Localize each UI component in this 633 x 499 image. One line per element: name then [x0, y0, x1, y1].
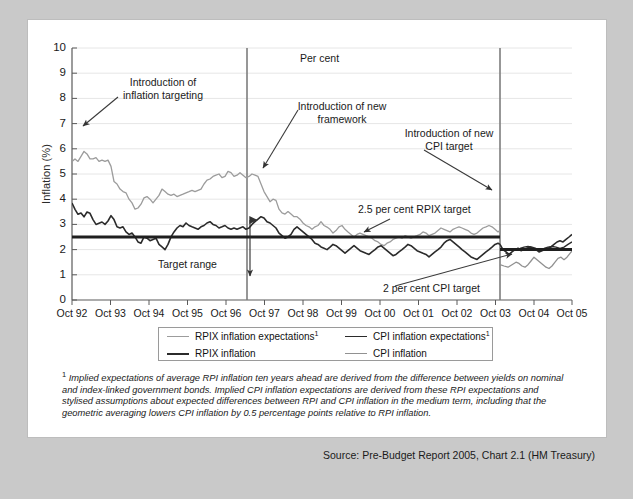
- y-tick-7: 7: [44, 117, 66, 129]
- footnote-marker: 1: [62, 370, 66, 379]
- annotation-line-1: Introduction of new: [393, 127, 505, 140]
- legend-item-rpix-inflation[interactable]: RPIX inflation: [159, 348, 337, 359]
- annotation-line-1: Introduction of new: [287, 100, 397, 113]
- footnote-text: Implied expectations of average RPI infl…: [62, 373, 563, 418]
- y-tick-4: 4: [44, 192, 66, 204]
- source-strip: Source: Pre-Budget Report 2005, Chart 2.…: [27, 440, 607, 470]
- y-tick-1: 1: [44, 268, 66, 280]
- legend-swatch-rpix-expectations: [167, 336, 189, 337]
- y-tick-2: 2: [44, 243, 66, 255]
- arrow-rpix-target-label: [364, 219, 390, 232]
- y-tick-5: 5: [44, 167, 66, 179]
- annotation-intro-new-cpi-target: Introduction of new CPI target: [393, 127, 505, 153]
- legend-label-rpix-expectations: RPIX inflation expectations1: [195, 330, 318, 342]
- legend-item-rpix-expectations[interactable]: RPIX inflation expectations1: [159, 330, 337, 342]
- legend-label-cpi-inflation: CPI inflation: [373, 348, 427, 359]
- annotation-line-2: inflation targeting: [108, 89, 218, 102]
- y-tick-0: 0: [44, 293, 66, 305]
- annotation-line-2: framework: [287, 113, 397, 126]
- annotation-line-2: CPI target: [393, 140, 505, 153]
- source-text: Source: Pre-Budget Report 2005, Chart 2.…: [323, 449, 607, 461]
- series-rpix-expectations: [72, 151, 500, 245]
- annotation-rpix-target-label: 2.5 per cent RPIX target: [358, 203, 471, 216]
- chart-footnote: 1 Implied expectations of average RPI in…: [62, 369, 567, 419]
- x-tick-oct-05: Oct 05: [542, 307, 602, 319]
- series-rpix-inflation-late: [500, 234, 572, 254]
- y-tick-3: 3: [44, 217, 66, 229]
- y-tick-8: 8: [44, 91, 66, 103]
- arrow-intro-new-cpi-target: [424, 150, 492, 190]
- figure-root: Inflation (%) 10 9 8 7 6 5 4 3 2 1 0 Oct…: [0, 0, 633, 499]
- y-tick-10: 10: [44, 41, 66, 53]
- legend-item-cpi-expectations[interactable]: CPI inflation expectations1: [337, 330, 494, 342]
- unit-label: Per cent: [300, 52, 339, 65]
- chart-legend: RPIX inflation expectations1 CPI inflati…: [158, 327, 493, 361]
- legend-label-cpi-expectations: CPI inflation expectations1: [373, 330, 490, 342]
- legend-swatch-rpix-inflation: [167, 353, 189, 355]
- legend-label-rpix-inflation: RPIX inflation: [195, 348, 256, 359]
- annotation-target-range: Target range: [158, 258, 217, 271]
- y-tick-9: 9: [44, 66, 66, 78]
- annotation-intro-new-framework: Introduction of new framework: [287, 100, 397, 126]
- y-tick-6: 6: [44, 142, 66, 154]
- legend-item-cpi-inflation[interactable]: CPI inflation: [337, 348, 494, 359]
- chart-plot: [0, 0, 633, 499]
- legend-swatch-cpi-expectations: [345, 336, 367, 337]
- legend-swatch-cpi-inflation: [345, 353, 367, 354]
- annotation-line-1: Introduction of: [108, 76, 218, 89]
- annotation-intro-inflation-targeting: Introduction of inflation targeting: [108, 76, 218, 102]
- annotation-cpi-target-label: 2 per cent CPI target: [383, 282, 480, 295]
